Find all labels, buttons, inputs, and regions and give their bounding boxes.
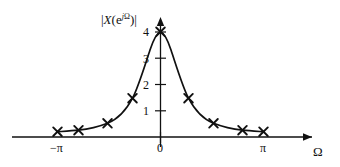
y-axis-label: |X(ejΩ)|: [101, 13, 137, 26]
x-axis-label: Ω: [313, 145, 323, 158]
x-axis-arrowhead: [303, 133, 312, 141]
x-tick-label-neg-pi: −π: [50, 142, 63, 154]
y-tick-label-1: 1: [143, 105, 149, 117]
y-tick-label-4: 4: [143, 26, 149, 38]
data-marker: [209, 119, 218, 128]
y-axis-label-bar-right: |: [134, 12, 137, 27]
y-tick-label-3: 3: [143, 53, 149, 65]
y-tick-label-2: 2: [143, 79, 149, 91]
data-marker: [184, 94, 193, 103]
data-marker: [103, 119, 112, 128]
y-axis-label-function: X: [104, 12, 112, 27]
data-marker: [128, 94, 137, 103]
y-axis-arrowhead: [157, 17, 164, 26]
x-tick-label-zero: 0: [157, 142, 163, 154]
x-tick-label-pi: π: [260, 142, 266, 154]
y-axis-label-exponent: jΩ: [122, 12, 130, 21]
dtft-magnitude-figure: |X(ejΩ)| 1 2 3 4 −π 0 π Ω: [0, 0, 340, 167]
